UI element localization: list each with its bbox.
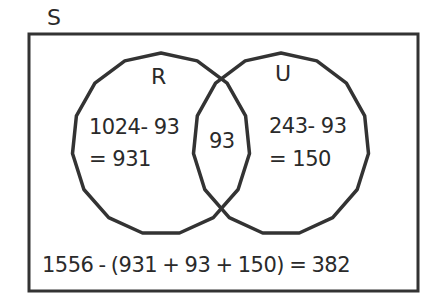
u-only-line1: 243- 93 [269,116,347,137]
set-u-label: U [275,63,291,85]
outside-region-formula: 1556 - (931 + 93 + 150) = 382 [42,255,350,276]
u-only-line2: = 150 [269,149,331,170]
r-only-line2: = 931 [89,149,151,170]
intersection-value: 93 [209,131,235,152]
r-only-line1: 1024- 93 [89,117,179,138]
universe-label: S [47,7,60,29]
set-r-label: R [151,66,166,88]
